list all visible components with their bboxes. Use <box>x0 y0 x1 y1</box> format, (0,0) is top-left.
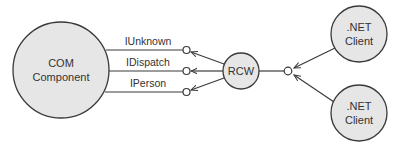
com-component-node: COM Component <box>13 22 109 118</box>
rcw-to-iunknown-arrow-icon <box>191 52 224 64</box>
iperson-label: IPerson <box>130 77 166 89</box>
com-component-label-line1: COM <box>48 57 74 69</box>
client-top-label-line1: .NET <box>346 21 371 33</box>
iperson-port-icon <box>183 89 190 96</box>
idispatch-port-icon <box>183 68 190 75</box>
dotnet-client-top-node: .NET Client <box>331 6 387 62</box>
rcw-label: RCW <box>228 65 255 77</box>
dotnet-client-bottom-node: .NET Client <box>331 85 387 141</box>
rcw-node: RCW <box>223 53 259 89</box>
client-top-label-line2: Client <box>345 35 373 47</box>
client-top-arrow-icon <box>294 48 335 68</box>
rcw-port-icon <box>284 67 292 75</box>
interface-iperson: IPerson <box>105 77 190 96</box>
diagram-canvas: COM Component IUnknown IDispatch IPerson… <box>0 0 407 144</box>
rcw-to-iperson-arrow-icon <box>191 78 224 90</box>
client-bottom-label-line1: .NET <box>346 100 371 112</box>
idispatch-label: IDispatch <box>126 56 170 68</box>
client-bottom-label-line2: Client <box>345 114 373 126</box>
client-bottom-arrow-icon <box>294 75 334 102</box>
interface-idispatch: IDispatch <box>109 56 190 75</box>
com-component-label-line2: Component <box>33 71 90 83</box>
iunknown-port-icon <box>183 47 190 54</box>
iunknown-label: IUnknown <box>125 35 172 47</box>
interface-iunknown: IUnknown <box>106 35 190 54</box>
